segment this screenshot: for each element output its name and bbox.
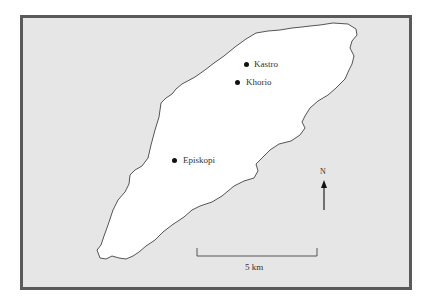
scale-bar xyxy=(197,248,317,256)
north-arrow-icon xyxy=(321,180,327,188)
place-marker-kastro xyxy=(244,62,249,67)
place-marker-khorio xyxy=(235,80,240,85)
place-marker-episkopi xyxy=(172,158,177,163)
scale-label: 5 km xyxy=(245,262,263,272)
island-coastline xyxy=(97,23,357,259)
place-label-kastro: Kastro xyxy=(254,59,278,69)
place-label-khorio: Khorio xyxy=(246,77,272,87)
island-map xyxy=(0,0,431,304)
north-label: N xyxy=(320,167,326,176)
place-label-episkopi: Episkopi xyxy=(183,155,215,165)
